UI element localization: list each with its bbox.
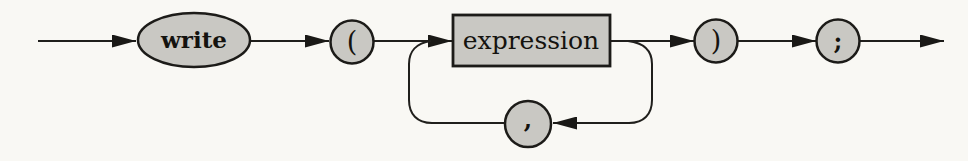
terminal-comma-label: , (524, 105, 532, 134)
nonterminal-expression-label: expression (463, 26, 599, 55)
terminal-open-paren-label: ( (347, 26, 358, 57)
syntax-diagram-canvas: write ( expression ) ; , (0, 0, 968, 161)
syntax-diagram: write ( expression ) ; , (0, 0, 968, 161)
terminal-write-label: write (160, 26, 227, 53)
terminal-close-paren-label: ) (711, 25, 722, 56)
terminal-semicolon-label: ; (834, 26, 843, 55)
diagram-nodes: write ( expression ) ; , (138, 13, 860, 147)
